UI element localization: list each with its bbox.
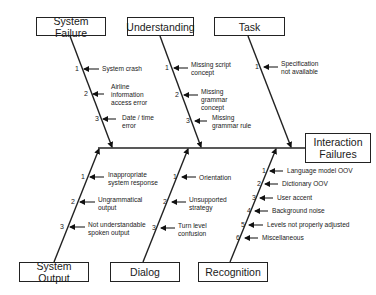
category-box-system-failure: System Failure (36, 17, 106, 36)
cause-label: Levels not properly adjusted (267, 221, 367, 229)
cause-number: 2 (175, 91, 179, 98)
cause-number: 2 (163, 198, 167, 205)
bone-dialog (143, 149, 188, 262)
effect-label-line2: Failures (319, 148, 356, 160)
category-box-system-output: System Output (19, 262, 89, 282)
cause-number: 4 (247, 207, 251, 214)
bone-understanding (160, 36, 201, 147)
cause-number: 3 (95, 115, 99, 122)
cause-number: 1 (255, 63, 259, 70)
cause-number: 3 (60, 223, 64, 230)
cause-label: Orientation (199, 174, 244, 182)
cause-number: 2 (257, 180, 261, 187)
bone-recognition (230, 149, 276, 262)
cause-number: 3 (152, 224, 156, 231)
cause-label: Turn level confusion (178, 222, 218, 238)
cause-label: Specification not available (281, 60, 323, 76)
category-box-understanding: Understanding (127, 17, 194, 36)
cause-label: Inappropriate system response (108, 171, 160, 187)
cause-label: System crash (102, 65, 162, 73)
cause-number: 1 (173, 173, 177, 180)
effect-label-line1: Interaction (313, 136, 362, 148)
cause-label: Unsupported strategy (189, 196, 229, 212)
category-box-recognition: Recognition (198, 262, 268, 282)
cause-number: 1 (81, 173, 85, 180)
category-box-dialog: Dialog (110, 262, 180, 282)
cause-label: Missing grammar rule (212, 114, 252, 130)
cause-number: 6 (236, 234, 240, 241)
cause-label: Dictionary OOV (282, 180, 362, 188)
bone-system-output (54, 149, 99, 262)
cause-label: Missing script concept (191, 61, 231, 77)
cause-label: Date / time error (122, 114, 156, 130)
cause-number: 5 (241, 221, 245, 228)
bone-system-failure (70, 36, 112, 147)
cause-number: 3 (252, 194, 256, 201)
cause-number: 3 (186, 117, 190, 124)
cause-number: 2 (84, 90, 88, 97)
cause-label: Ungrammatical output (98, 196, 143, 212)
cause-label: Miscellaneous (262, 234, 342, 242)
bone-task (248, 36, 291, 147)
cause-number: 1 (75, 65, 79, 72)
cause-number: 1 (165, 64, 169, 71)
cause-label: User accent (277, 194, 357, 202)
cause-number: 1 (262, 167, 266, 174)
cause-number: 2 (71, 198, 75, 205)
cause-label: Language model OOV (287, 167, 376, 175)
cause-label: Airline information access error (111, 83, 149, 107)
cause-label: Missing grammar concept (201, 88, 251, 112)
cause-label: Not understandable spoken output (88, 221, 146, 237)
effect-box-interaction-failures: Interaction Failures (305, 133, 371, 163)
cause-label: Background noise (272, 207, 352, 215)
category-box-task: Task (214, 17, 285, 36)
